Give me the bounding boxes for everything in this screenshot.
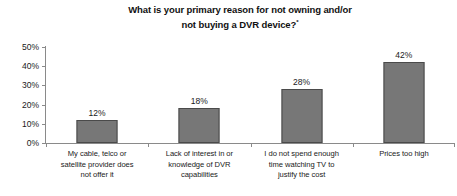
chart-title: What is your primary reason for not owni…	[90, 3, 390, 31]
bar[interactable]	[281, 89, 322, 143]
x-axis-tick-mark	[251, 143, 252, 147]
bar-value-label: 18%	[191, 96, 208, 106]
category-label-line: capabilities	[181, 170, 218, 179]
category-label-line: justify the cost	[278, 170, 325, 179]
y-axis-tick-label: 50%	[22, 42, 39, 52]
bar-chart-figure: What is your primary reason for not owni…	[0, 0, 457, 196]
bar-group: 42%	[353, 47, 455, 143]
bar-value-label: 42%	[395, 50, 412, 60]
bar[interactable]	[77, 120, 118, 143]
x-axis-tick-mark	[353, 143, 354, 147]
category-label-line: not offer it	[81, 170, 114, 179]
category-label-line: I do not spend enough	[264, 149, 339, 158]
x-axis-category-label: Prices too high	[353, 149, 455, 160]
bar[interactable]	[179, 108, 220, 143]
plot-area: 12%18%28%42%	[46, 47, 455, 143]
bar-value-label: 12%	[89, 108, 106, 118]
x-axis-tick-mark	[46, 143, 47, 147]
category-label-line: satellite provider does	[61, 160, 134, 169]
y-axis-tick-label: 40%	[22, 61, 39, 71]
bar-value-label: 28%	[293, 77, 310, 87]
bar-group: 28%	[251, 47, 353, 143]
category-label-line: My cable, telco or	[68, 149, 127, 158]
category-label-line: Lack of interest in or	[166, 149, 233, 158]
x-axis-tick-mark	[148, 143, 149, 147]
title-footnote-marker: *	[296, 19, 298, 25]
chart-title-line-2: not buying a DVR device?	[181, 19, 296, 30]
y-axis-tick-label: 10%	[22, 119, 39, 129]
y-axis-tick-label: 30%	[22, 80, 39, 90]
x-axis-category-label: Lack of interest in orknowledge of DVRca…	[148, 149, 250, 181]
category-label-line: Prices too high	[379, 149, 428, 158]
category-label-line: knowledge of DVR	[168, 160, 230, 169]
bar-group: 12%	[46, 47, 148, 143]
y-axis-tick-label: 20%	[22, 100, 39, 110]
bar-group: 18%	[148, 47, 250, 143]
x-axis-tick-mark	[454, 143, 455, 147]
y-axis-tick-label: 0%	[27, 138, 39, 148]
x-axis-category-label: I do not spend enoughtime watching TV to…	[251, 149, 353, 181]
bar[interactable]	[383, 62, 424, 143]
x-axis-category-label: My cable, telco orsatellite provider doe…	[46, 149, 148, 181]
category-label-line: time watching TV to	[269, 160, 335, 169]
chart-title-line-1: What is your primary reason for not owni…	[128, 4, 352, 15]
